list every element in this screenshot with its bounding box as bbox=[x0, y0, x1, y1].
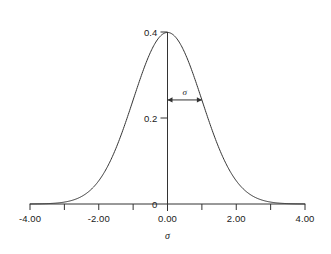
x-tick-label: 4.00 bbox=[296, 213, 315, 224]
sigma-span-arrow bbox=[168, 97, 202, 102]
x-tick-label: 2.00 bbox=[227, 213, 246, 224]
y-tick-label: 0.4 bbox=[0, 27, 158, 38]
x-tick-label: -2.00 bbox=[88, 213, 110, 224]
y-axis-ticks bbox=[161, 32, 168, 118]
sigma-annotation-label: σ bbox=[182, 87, 186, 97]
sigma-arrow-head bbox=[168, 97, 173, 102]
x-tick-label: -4.00 bbox=[19, 213, 41, 224]
x-tick-label: 0.00 bbox=[158, 213, 177, 224]
normal-distribution-chart: -4.00-2.000.002.004.00 00.20.4 σ σ bbox=[0, 0, 331, 254]
x-axis-title: σ bbox=[165, 230, 170, 241]
y-tick-label: 0 bbox=[0, 199, 158, 210]
y-tick-label: 0.2 bbox=[0, 113, 158, 124]
